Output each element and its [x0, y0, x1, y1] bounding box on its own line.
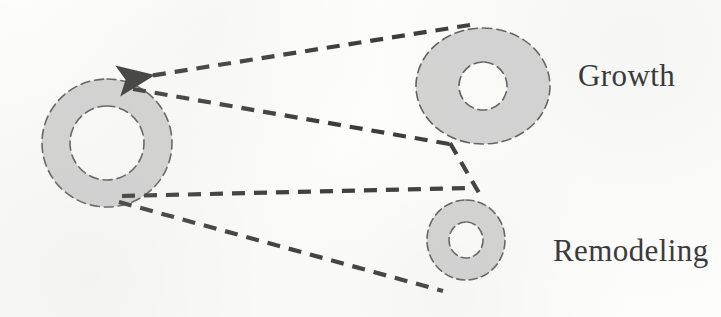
label-growth: Growth [578, 58, 675, 94]
remodeling-vessel-cross-section [427, 200, 505, 280]
connector-source-to-remodeling-lower [119, 202, 443, 291]
diagram-canvas: Growth Remodeling [0, 0, 721, 317]
diagram-vector-layer [0, 0, 721, 317]
growth-vessel-cross-section [416, 28, 550, 144]
connector-source-to-remodeling-upper [122, 188, 470, 196]
baseline-vessel-cross-section [42, 79, 172, 207]
connector-growth-lower-to-remodeling [450, 143, 479, 193]
connector-source-to-growth-lower [133, 89, 455, 145]
label-remodeling: Remodeling [553, 233, 709, 269]
